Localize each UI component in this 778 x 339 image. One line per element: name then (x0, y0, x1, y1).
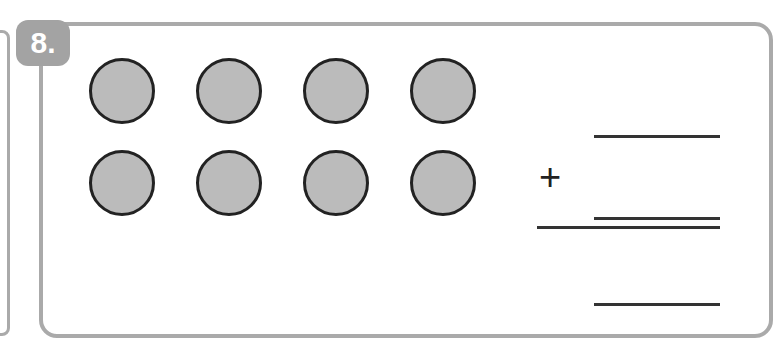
addend-blank-2[interactable] (594, 217, 720, 220)
problem-number-badge: 8. (16, 20, 70, 66)
counter-circle (89, 58, 155, 124)
counter-circle (410, 150, 476, 216)
counter-circle (410, 58, 476, 124)
counter-circle (303, 150, 369, 216)
sum-blank[interactable] (594, 303, 720, 306)
counter-circle (89, 150, 155, 216)
sum-bar (537, 226, 720, 229)
counter-circle (196, 150, 262, 216)
addend-blank-1[interactable] (594, 135, 720, 138)
counter-circle (303, 58, 369, 124)
counter-circle (196, 58, 262, 124)
adjacent-panel-edge (0, 30, 10, 336)
plus-sign: + (539, 158, 561, 196)
